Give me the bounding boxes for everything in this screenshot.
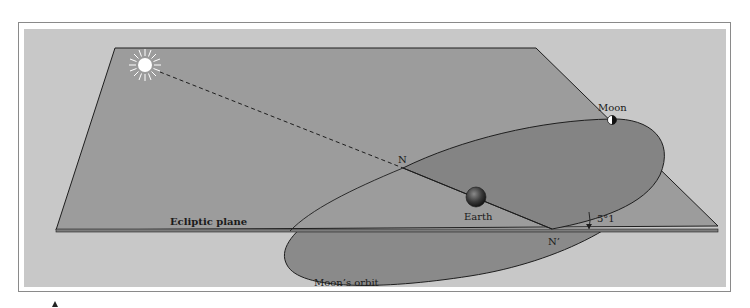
- page-marker-icon: [52, 301, 58, 307]
- earth-icon: [466, 187, 486, 207]
- moon-orbit-diagram: Moon N Earth N’ 5°1 Ecliptic plane Moon’…: [0, 0, 750, 308]
- angle-label: 5°1: [597, 213, 615, 224]
- node-n-label: N: [398, 154, 407, 165]
- moons-orbit-label: Moon’s orbit: [314, 277, 379, 288]
- moon-label: Moon: [598, 102, 627, 113]
- ecliptic-plane-label: Ecliptic plane: [170, 216, 247, 227]
- earth-label: Earth: [464, 211, 493, 222]
- moon-icon: [608, 116, 617, 125]
- node-n-prime-label: N’: [548, 236, 560, 247]
